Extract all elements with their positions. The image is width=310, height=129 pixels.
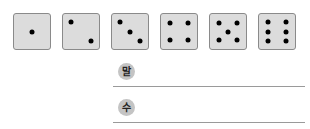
pip-dot-icon [266, 39, 271, 44]
pip-dot-icon [217, 20, 222, 25]
pip-dot-icon [284, 39, 289, 44]
pip-dot-icon [138, 39, 143, 44]
word-label-badge: 말 [118, 63, 135, 80]
pip-dot-icon [128, 29, 133, 34]
die-face-2 [62, 13, 100, 50]
pip-dot-icon [186, 38, 191, 43]
number-label-badge: 수 [118, 99, 135, 116]
pip-dot-icon [284, 19, 289, 24]
die-face-1 [13, 13, 51, 50]
word-answer-line [113, 86, 305, 87]
die-face-4 [160, 13, 198, 50]
pip-dot-icon [30, 29, 35, 34]
pip-dot-icon [266, 19, 271, 24]
pip-dot-icon [117, 19, 122, 24]
die-face-5 [209, 13, 247, 50]
pip-dot-icon [68, 19, 73, 24]
answer-row-number[interactable]: 수 [113, 99, 305, 123]
die-face-6 [258, 13, 296, 50]
pip-dot-icon [235, 38, 240, 43]
pip-dot-icon [235, 20, 240, 25]
number-answer-line [113, 122, 305, 123]
pip-dot-icon [168, 38, 173, 43]
answer-row-word[interactable]: 말 [113, 63, 305, 87]
pip-dot-icon [186, 20, 191, 25]
pip-dot-icon [266, 29, 271, 34]
pip-dot-icon [226, 29, 231, 34]
pip-dot-icon [168, 20, 173, 25]
pip-dot-icon [89, 39, 94, 44]
die-face-3 [111, 13, 149, 50]
pip-dot-icon [284, 29, 289, 34]
pip-dot-icon [217, 38, 222, 43]
